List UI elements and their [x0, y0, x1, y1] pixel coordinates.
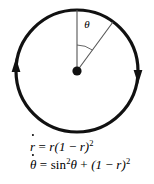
r-variable-letter: r	[30, 139, 35, 154]
radial-minus-sign: −	[69, 139, 76, 154]
angular-exponent: 2	[126, 156, 130, 166]
radial-equation: r = r(1 − r)2	[30, 140, 94, 153]
r-dot-icon	[31, 134, 33, 136]
theta-dot-variable: θ	[30, 158, 37, 171]
angular-term-lead: (1	[91, 157, 102, 172]
theta-angle-arc	[77, 45, 92, 50]
angular-plus-sign: +	[80, 157, 87, 172]
theta-variable-letter: θ	[30, 157, 37, 172]
angular-minus-sign: −	[106, 157, 113, 172]
radial-rhs-lead: r(1	[49, 139, 65, 154]
theta-dot-icon	[32, 154, 34, 156]
equations-block: r = r(1 − r)2 θ = sin2θ + (1 − r)2	[0, 136, 154, 184]
sine-function-name: sin	[51, 157, 66, 172]
flow-arrow-left-icon	[12, 58, 21, 72]
theta-angle-label: θ	[84, 18, 90, 30]
slanted-radius-line	[77, 22, 113, 71]
radial-exponent: 2	[89, 138, 93, 148]
flow-arrow-right-icon	[134, 70, 143, 84]
angular-equation: θ = sin2θ + (1 − r)2	[30, 158, 130, 171]
r-dot-variable: r	[30, 140, 35, 153]
angular-equals-sign: =	[40, 157, 47, 172]
radial-equals-sign: =	[39, 139, 46, 154]
angular-term-var: r)	[116, 157, 126, 172]
origin-dot	[72, 66, 81, 75]
radial-rhs-var: r)	[80, 139, 90, 154]
sine-argument: θ	[71, 157, 78, 172]
